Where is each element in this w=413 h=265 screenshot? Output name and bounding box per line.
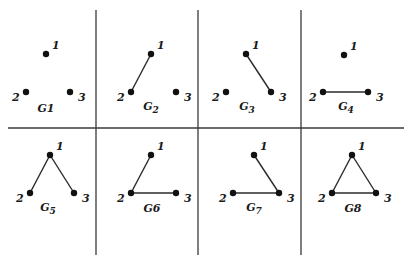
vertex-1 (43, 51, 49, 57)
vertex-3 (173, 89, 179, 95)
vertex-label-3: 3 (82, 192, 90, 205)
vertex-label-3: 3 (184, 192, 192, 205)
vertex-3 (67, 89, 73, 95)
graph-label-subscript: 4 (348, 105, 354, 115)
vertex-3 (268, 89, 274, 95)
vertex-label-1: 1 (157, 140, 165, 153)
graph-label-base: G (239, 100, 248, 113)
graph-label: G8 (344, 202, 361, 215)
vertex-label-2: 2 (15, 192, 24, 205)
vertex-2 (23, 89, 29, 95)
graph-label-subscript: 2 (152, 105, 159, 115)
vertex-label-2: 2 (218, 192, 227, 205)
vertex-label-1: 1 (52, 39, 60, 52)
graph-g3: 123G3 (211, 39, 287, 115)
graph-label: G7 (246, 201, 262, 216)
graph-g1: 123G1 (11, 39, 86, 115)
edge-1-3 (50, 155, 74, 193)
graph-label: G5 (40, 201, 56, 216)
graph-g4: 123G4 (308, 40, 384, 115)
edge-1-2 (332, 155, 352, 193)
vertex-3 (365, 89, 371, 95)
graph-label: G2 (143, 100, 159, 115)
graph-label-base: G (246, 201, 255, 214)
vertex-label-2: 2 (317, 192, 326, 205)
vertex-2 (27, 190, 33, 196)
vertex-3 (71, 190, 77, 196)
edge-1-2 (131, 155, 151, 193)
vertex-label-3: 3 (279, 91, 287, 104)
graph-g7: 123G7 (218, 140, 295, 216)
graph-label-base: G (338, 100, 347, 113)
panel-grid (8, 10, 404, 255)
graph-label-subscript: 7 (256, 206, 263, 216)
vertex-1 (251, 152, 257, 158)
vertex-2 (128, 190, 134, 196)
graph-label: G1 (37, 102, 54, 115)
vertex-1 (243, 51, 249, 57)
vertex-1 (148, 51, 154, 57)
vertex-label-2: 2 (11, 91, 20, 104)
graph-label-subscript: 5 (50, 206, 56, 216)
graph-label: G4 (338, 100, 354, 115)
vertex-1 (341, 52, 347, 58)
vertex-label-1: 1 (157, 39, 165, 52)
edge-1-2 (30, 155, 50, 193)
edge-1-2 (131, 54, 151, 92)
vertex-label-2: 2 (211, 91, 220, 104)
graph-g5: 123G5 (15, 140, 90, 216)
vertex-label-1: 1 (260, 140, 268, 153)
vertex-label-1: 1 (56, 140, 64, 153)
vertex-3 (173, 190, 179, 196)
vertex-label-3: 3 (78, 91, 86, 104)
vertex-label-3: 3 (384, 192, 392, 205)
vertex-label-3: 3 (376, 91, 384, 104)
vertex-label-1: 1 (252, 39, 260, 52)
vertex-2 (329, 190, 335, 196)
graph-label-base: G (143, 100, 152, 113)
graph-g6: 123G6 (116, 140, 192, 215)
graph-label-subscript: 3 (249, 105, 255, 115)
vertex-1 (148, 152, 154, 158)
vertex-2 (320, 89, 326, 95)
vertex-3 (373, 190, 379, 196)
vertex-2 (230, 190, 236, 196)
vertex-2 (223, 89, 229, 95)
vertex-label-3: 3 (287, 192, 295, 205)
graph-g2: 123G2 (116, 39, 192, 115)
edge-1-3 (254, 155, 279, 193)
edge-1-3 (352, 155, 376, 193)
edge-1-3 (246, 54, 271, 92)
vertex-3 (276, 190, 282, 196)
vertex-label-2: 2 (308, 91, 317, 104)
vertex-label-2: 2 (116, 91, 125, 104)
graph-enumeration-diagram: 123G1123G2123G3123G4123G5123G6123G7123G8 (0, 0, 413, 265)
vertex-label-2: 2 (116, 192, 125, 205)
vertex-label-1: 1 (350, 40, 358, 53)
graph-label: G3 (239, 100, 255, 115)
graph-label-base: G (40, 201, 49, 214)
vertex-2 (128, 89, 134, 95)
graph-g8: 123G8 (317, 140, 392, 215)
vertex-label-1: 1 (358, 140, 366, 153)
vertex-1 (47, 152, 53, 158)
vertex-1 (349, 152, 355, 158)
graph-label: G6 (143, 202, 160, 215)
vertex-label-3: 3 (184, 91, 192, 104)
